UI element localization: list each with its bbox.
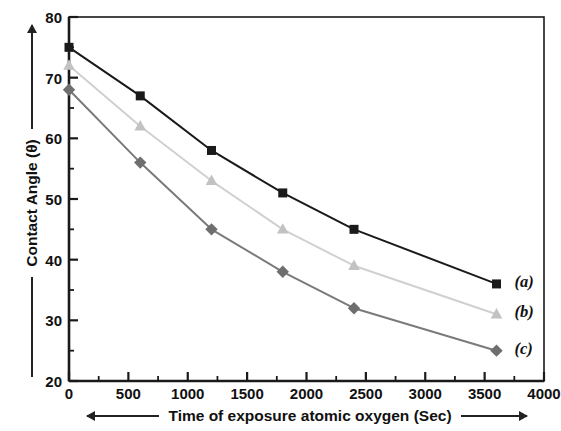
series-label-a: (a) bbox=[515, 272, 534, 292]
y-axis-label: Contact Angle (θ) bbox=[23, 139, 41, 267]
y-axis-label-group: Contact Angle (θ) bbox=[18, 11, 46, 391]
x-tick-label: 1500 bbox=[217, 385, 277, 402]
x-axis-right-arrow-icon bbox=[461, 415, 527, 417]
chart-figure: 20304050607080 0500100015002000250030003… bbox=[0, 0, 561, 431]
x-axis-tick-labels: 05001000150020002500300035004000 bbox=[0, 0, 561, 431]
x-axis-label-group: Time of exposure atomic oxygen (Sec) bbox=[69, 404, 545, 428]
series-label-c: (c) bbox=[515, 339, 533, 359]
x-tick-label: 3000 bbox=[395, 385, 455, 402]
y-axis-tail-line bbox=[31, 277, 33, 377]
y-axis-arrow-icon bbox=[31, 25, 33, 129]
x-axis-left-arrow-icon bbox=[87, 415, 159, 417]
x-tick-label: 0 bbox=[39, 385, 99, 402]
x-tick-label: 2000 bbox=[277, 385, 337, 402]
x-tick-label: 4000 bbox=[514, 385, 561, 402]
x-axis-label: Time of exposure atomic oxygen (Sec) bbox=[168, 407, 451, 425]
x-tick-label: 3500 bbox=[455, 385, 515, 402]
x-tick-label: 1000 bbox=[158, 385, 218, 402]
x-tick-label: 2500 bbox=[336, 385, 396, 402]
series-label-b: (b) bbox=[515, 302, 534, 322]
x-tick-label: 500 bbox=[98, 385, 158, 402]
